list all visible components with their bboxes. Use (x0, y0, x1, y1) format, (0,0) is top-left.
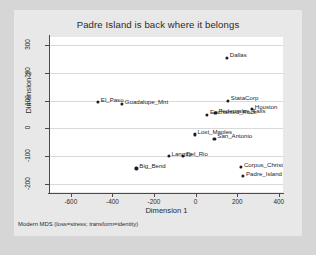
y-tick-label: 200 (24, 59, 31, 85)
x-tick-mark (112, 193, 113, 197)
gridline (50, 73, 283, 74)
x-tick-mark (154, 193, 155, 197)
y-tick-label: -100 (24, 143, 31, 169)
y-tick-label: 100 (24, 87, 31, 113)
data-point-marker (241, 174, 244, 177)
gridline (50, 45, 283, 46)
x-tick-mark (279, 193, 280, 197)
y-tick-mark (45, 128, 49, 129)
x-tick-mark (196, 193, 197, 197)
data-point-label: Padre_Island (246, 171, 282, 177)
data-point-marker (182, 154, 185, 157)
data-point-label: Enchanted_Rock (210, 109, 256, 115)
x-tick-label: 400 (264, 198, 294, 205)
data-point-marker (213, 137, 216, 140)
data-point-label: Del_Rio (186, 151, 208, 157)
data-point-marker (239, 165, 242, 168)
x-tick-mark (71, 193, 72, 197)
data-point-label: San_Antonio (217, 133, 252, 139)
data-point-marker (167, 154, 170, 157)
y-tick-mark (45, 184, 49, 185)
y-tick-mark (45, 156, 49, 157)
data-point-marker (225, 56, 228, 59)
y-tick-label: 300 (24, 32, 31, 58)
data-point-label: Big_Bend (139, 163, 165, 169)
mds-scatter-figure: Padre Island is back where it belongs Di… (14, 10, 302, 236)
y-tick-label: -200 (24, 170, 31, 196)
plot-area: DallasStataCorpHoustonEl_PasoGuadalupe_M… (50, 37, 283, 192)
data-point-marker (226, 99, 229, 102)
page-title: Padre Island is back where it belongs (14, 19, 302, 30)
gridline (50, 184, 283, 185)
y-tick-mark (45, 45, 49, 46)
data-point-marker (193, 133, 196, 136)
data-point-marker (135, 167, 138, 170)
x-tick-label: -600 (56, 198, 86, 205)
data-point-marker (205, 113, 208, 116)
data-point-marker (120, 102, 123, 105)
x-tick-label: 200 (222, 198, 252, 205)
x-tick-label: 0 (181, 198, 211, 205)
data-point-label: Guadalupe_Mnt (125, 99, 168, 105)
y-tick-mark (45, 101, 49, 102)
x-tick-label: -400 (97, 198, 127, 205)
data-point-label: StataCorp (231, 95, 258, 101)
data-point-label: Corpus_Christi (244, 162, 283, 168)
x-axis-line (48, 193, 284, 194)
y-tick-label: 0 (24, 115, 31, 141)
x-axis-title: Dimension 1 (50, 206, 283, 215)
chart-footnote: Modern MDS (loss=stress; transform=ident… (18, 221, 138, 227)
data-point-label: Dallas (230, 52, 247, 58)
x-tick-mark (237, 193, 238, 197)
x-tick-label: -200 (139, 198, 169, 205)
data-point-marker (96, 100, 99, 103)
y-tick-mark (45, 73, 49, 74)
gridline (50, 128, 283, 129)
